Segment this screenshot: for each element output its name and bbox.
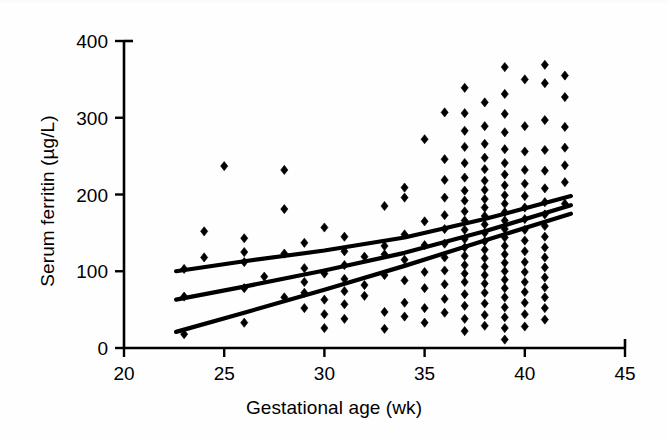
data-point-marker (541, 303, 548, 312)
data-point-marker (301, 238, 308, 247)
data-point-marker (301, 303, 308, 312)
data-point-marker (541, 60, 548, 69)
data-point-marker (401, 183, 408, 192)
middle-curve (176, 205, 571, 299)
data-point-marker (561, 143, 568, 152)
x-tick-label: 20 (113, 363, 134, 384)
data-point-marker (481, 270, 488, 279)
data-point-marker (501, 89, 508, 98)
data-point-marker (321, 295, 328, 304)
data-point-marker (441, 108, 448, 117)
data-point-marker (541, 243, 548, 252)
data-point-marker (461, 196, 468, 205)
data-point-marker (441, 308, 448, 317)
plot-canvas: 0100200300400202530354045 (0, 0, 668, 441)
data-point-marker (481, 153, 488, 162)
data-point-marker (481, 245, 488, 254)
data-point-marker (461, 301, 468, 310)
data-point-marker (441, 193, 448, 202)
data-point-marker (561, 178, 568, 187)
data-point-marker (461, 173, 468, 182)
data-point-marker (541, 79, 548, 88)
data-point-marker (541, 253, 548, 262)
data-point-marker (561, 161, 568, 170)
data-point-marker (341, 287, 348, 296)
data-point-marker (241, 318, 248, 327)
data-point-marker (441, 211, 448, 220)
data-point-marker (501, 170, 508, 179)
data-point-marker (441, 155, 448, 164)
data-point-marker (421, 303, 428, 312)
data-point-marker (481, 288, 488, 297)
data-point-marker (461, 83, 468, 92)
data-point-marker (381, 324, 388, 333)
data-point-marker (561, 122, 568, 131)
data-point-marker (521, 75, 528, 84)
data-point-marker (461, 207, 468, 216)
data-point-marker (521, 236, 528, 245)
data-point-marker (501, 241, 508, 250)
data-point-marker (521, 298, 528, 307)
data-point-marker (561, 71, 568, 80)
x-tick-label: 35 (414, 363, 435, 384)
data-point-marker (521, 267, 528, 276)
y-tick-label: 100 (76, 261, 108, 282)
data-point-marker (401, 312, 408, 321)
data-point-marker (301, 264, 308, 273)
data-point-marker (361, 291, 368, 300)
data-point-marker (521, 191, 528, 200)
data-point-marker (241, 247, 248, 256)
y-tick-label: 400 (76, 31, 108, 52)
data-point-marker (501, 199, 508, 208)
data-point-marker (461, 186, 468, 195)
data-point-marker (461, 251, 468, 260)
data-point-marker (481, 122, 488, 131)
x-tick-label: 30 (314, 363, 335, 384)
data-point-marker (421, 284, 428, 293)
data-point-marker (421, 318, 428, 327)
axes-group (115, 41, 625, 357)
data-points-group (181, 60, 569, 344)
data-point-marker (521, 322, 528, 331)
data-point-marker (501, 158, 508, 167)
data-point-marker (421, 217, 428, 226)
scatter-plot-figure: 0100200300400202530354045 Gestational ag… (0, 0, 668, 441)
data-point-marker (401, 298, 408, 307)
data-point-marker (501, 275, 508, 284)
data-point-marker (261, 272, 268, 281)
data-point-marker (501, 191, 508, 200)
data-point-marker (461, 109, 468, 118)
data-point-marker (461, 142, 468, 151)
data-point-marker (461, 225, 468, 234)
tick-labels-group: 0100200300400202530354045 (76, 31, 635, 384)
data-point-marker (481, 165, 488, 174)
y-tick-label: 200 (76, 185, 108, 206)
data-point-marker (321, 223, 328, 232)
data-point-marker (541, 315, 548, 324)
data-point-marker (361, 280, 368, 289)
lower-curve (176, 214, 571, 332)
data-point-marker (501, 293, 508, 302)
data-point-marker (481, 279, 488, 288)
data-point-marker (521, 257, 528, 266)
data-point-marker (421, 267, 428, 276)
data-point-marker (441, 294, 448, 303)
data-point-marker (501, 145, 508, 154)
data-point-marker (461, 290, 468, 299)
data-point-marker (461, 158, 468, 167)
y-tick-label: 300 (76, 108, 108, 129)
data-point-marker (461, 126, 468, 135)
data-point-marker (541, 273, 548, 282)
data-point-marker (521, 277, 528, 286)
data-point-marker (341, 314, 348, 323)
data-point-marker (341, 232, 348, 241)
data-point-marker (521, 165, 528, 174)
data-point-marker (401, 276, 408, 285)
data-point-marker (381, 307, 388, 316)
data-point-marker (441, 175, 448, 184)
data-point-marker (401, 193, 408, 202)
data-point-marker (481, 203, 488, 212)
data-point-marker (501, 250, 508, 259)
data-point-marker (281, 165, 288, 174)
data-point-marker (541, 145, 548, 154)
